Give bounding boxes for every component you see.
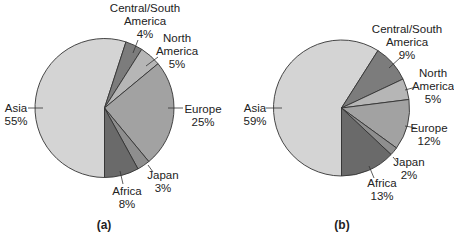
label-b-japan: Japan xyxy=(393,156,424,168)
label-b-africa-value: 13% xyxy=(370,190,393,202)
label-b-asia: Asia xyxy=(244,102,267,114)
label-a-na-value: 5% xyxy=(169,58,186,70)
label-a-europe-value: 25% xyxy=(191,116,214,128)
panel-label-a: (a) xyxy=(97,218,112,232)
label-a-csa-value: 4% xyxy=(137,28,154,40)
label-b-na-line1: North xyxy=(419,67,447,79)
label-a-asia: Asia xyxy=(5,102,28,114)
label-b-africa: Africa xyxy=(367,177,397,189)
label-b-na-line2: America xyxy=(412,80,454,92)
label-b-csa-line2: America xyxy=(386,36,429,48)
pie-chart-b xyxy=(273,40,409,176)
label-b-asia-value: 59% xyxy=(243,115,266,127)
label-b-csa-value: 9% xyxy=(399,49,416,61)
label-a-csa-line2: America xyxy=(124,15,167,27)
label-b-csa-line1: Central/South xyxy=(372,23,442,35)
label-a-africa-value: 8% xyxy=(119,198,136,210)
label-b-na-value: 5% xyxy=(425,93,442,105)
label-a-africa: Africa xyxy=(112,185,142,197)
label-a-japan-value: 3% xyxy=(155,182,172,194)
label-a-europe: Europe xyxy=(184,103,221,115)
label-a-asia-value: 55% xyxy=(4,115,27,127)
pie-chart-figure: Central/South America 4% North America 5… xyxy=(0,0,454,237)
label-b-europe: Europe xyxy=(410,122,447,134)
pie-chart-a xyxy=(35,39,174,178)
label-a-na-line1: North xyxy=(163,32,191,44)
panel-label-b: (b) xyxy=(334,218,349,232)
label-b-japan-value: 2% xyxy=(401,169,418,181)
label-a-na-line2: America xyxy=(156,45,199,57)
label-a-csa-line1: Central/South xyxy=(110,2,180,14)
label-b-europe-value: 12% xyxy=(417,135,440,147)
